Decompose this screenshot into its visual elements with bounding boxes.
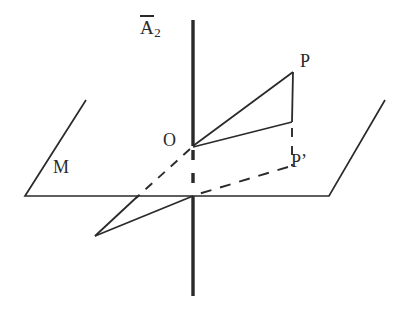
- segment-p-to-corner: [292, 72, 293, 122]
- figure-background: [0, 0, 403, 309]
- point-label-p-prime: P’: [291, 152, 307, 170]
- axis-label-subscript: 2: [154, 25, 161, 40]
- diagram-canvas: A2 P O P’ M: [0, 0, 403, 309]
- plane-label-m: M: [53, 158, 69, 176]
- axis-label-letter: A: [140, 18, 154, 37]
- axis-label: A2: [140, 18, 161, 39]
- point-label-p: P: [300, 52, 310, 70]
- geometry-figure: [0, 0, 403, 309]
- point-label-o: O: [163, 131, 176, 149]
